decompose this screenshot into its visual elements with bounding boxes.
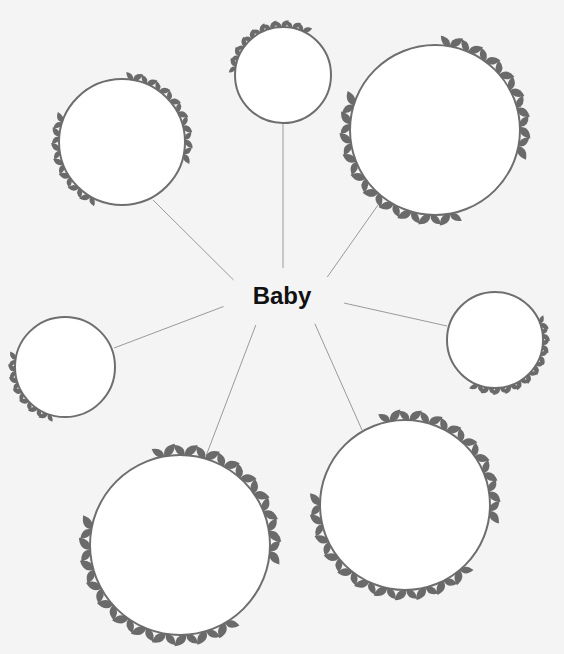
wreath-ring — [90, 455, 270, 635]
wreath-node-top-left[interactable] — [49, 70, 195, 207]
wreath-ring — [235, 27, 331, 123]
wreath-node-bottom-left[interactable] — [76, 441, 284, 649]
wreath-ring — [320, 420, 490, 590]
connector-bottom-right — [315, 324, 362, 430]
connector-left — [114, 307, 224, 348]
center-label: Baby — [0, 282, 564, 310]
mind-map-canvas — [0, 0, 564, 654]
wreath-ring — [15, 317, 115, 417]
wreath-node-top-right[interactable] — [337, 33, 533, 228]
connector-bottom-left — [206, 325, 256, 456]
connector-top-left — [153, 200, 233, 280]
connector-top-right — [327, 205, 378, 277]
wreath-node-left[interactable] — [6, 317, 115, 423]
wreath-node-top[interactable] — [227, 18, 331, 123]
wreath-ring — [350, 45, 520, 215]
wreath-ring — [59, 79, 185, 205]
wreath-node-bottom-right[interactable] — [307, 407, 503, 603]
